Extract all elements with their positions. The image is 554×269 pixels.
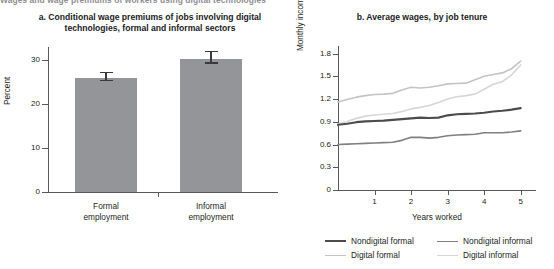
panel-a-y-tick bbox=[42, 60, 48, 61]
panel-b-x-tick bbox=[484, 190, 485, 195]
panel-b-y-tick-label: 1.2 bbox=[306, 95, 331, 103]
panel-b-y-tick-label: 1.5 bbox=[306, 72, 331, 80]
panel-b-y-tick bbox=[333, 122, 338, 123]
panel-b-x-tick bbox=[375, 190, 376, 195]
panel-a-y-axis-title: Percent bbox=[3, 77, 12, 105]
panel-a-y-tick-label: 30 bbox=[14, 56, 40, 64]
panel-b-y-tick-label: 0 bbox=[306, 186, 331, 194]
panel-a-x-tick-label: Formalemployment bbox=[51, 201, 161, 222]
panel-a-bar bbox=[75, 78, 137, 192]
panel-b-x-axis-line bbox=[338, 190, 536, 191]
panel-b-line-series bbox=[338, 131, 521, 145]
panel-b-x-tick-label: 2 bbox=[401, 197, 421, 206]
panel-a-wage-premiums: a. Conditional wage premiums of jobs inv… bbox=[0, 0, 300, 269]
panel-b-y-tick-label: 0.6 bbox=[306, 141, 331, 149]
panel-b-y-tick-label: 0.3 bbox=[306, 163, 331, 171]
panel-a-error-cap bbox=[205, 62, 218, 63]
panel-b-x-tick-label: 3 bbox=[438, 197, 458, 206]
panel-b-y-tick-label: 0.9 bbox=[306, 118, 331, 126]
legend-label: Digital formal bbox=[351, 250, 400, 260]
panel-b-line-series bbox=[338, 61, 521, 102]
panel-b-y-tick bbox=[333, 99, 338, 100]
panel-b-y-tick-label: 1.8 bbox=[306, 50, 331, 58]
panel-a-title: a. Conditional wage premiums of jobs inv… bbox=[0, 12, 300, 34]
panel-a-x-tick-label: Informalemployment bbox=[156, 201, 266, 222]
legend-item-nondigital-informal[interactable]: Nondigital informal bbox=[437, 234, 554, 248]
panel-b-x-axis-title: Years worked bbox=[338, 212, 536, 222]
panel-a-y-tick bbox=[42, 104, 48, 105]
legend-item-nondigital-formal[interactable]: Nondigital formal bbox=[325, 234, 437, 248]
panel-b-x-tick-label: 4 bbox=[474, 197, 494, 206]
panel-a-bar bbox=[180, 59, 242, 192]
panel-a-y-axis-line bbox=[48, 47, 49, 192]
panel-b-x-tick bbox=[448, 190, 449, 195]
panel-b-series-lines bbox=[338, 46, 528, 190]
panel-b-x-tick-label: 1 bbox=[365, 197, 385, 206]
panel-a-plot-area: Percent 0102030FormalemploymentInformale… bbox=[48, 47, 266, 192]
legend-row: Nondigital formalNondigital informal bbox=[325, 234, 554, 248]
panel-b-average-wages: b. Average wages, by job tenure Monthly … bbox=[290, 0, 554, 269]
panel-a-error-cap bbox=[205, 51, 218, 52]
legend-label: Nondigital formal bbox=[351, 236, 414, 246]
panel-b-y-tick bbox=[333, 190, 338, 191]
panel-a-error-cap bbox=[100, 72, 113, 73]
panel-a-y-tick bbox=[42, 148, 48, 149]
panel-a-y-tick-label: 20 bbox=[14, 100, 40, 108]
panel-b-x-tick-label: 5 bbox=[511, 197, 531, 206]
panel-b-y-axis-title: Monthly income (Rp, millions) bbox=[296, 0, 305, 51]
panel-a-y-tick bbox=[42, 192, 48, 193]
panel-b-x-tick bbox=[521, 190, 522, 195]
legend-item-digital-formal[interactable]: Digital formal bbox=[325, 248, 437, 262]
panel-b-y-tick bbox=[333, 54, 338, 55]
panel-b-title: b. Average wages, by job tenure bbox=[290, 12, 554, 23]
legend-label: Nondigital informal bbox=[463, 236, 532, 246]
panel-a-y-tick-label: 0 bbox=[14, 188, 40, 196]
legend-label: Digital informal bbox=[463, 250, 518, 260]
panel-a-x-tick bbox=[158, 192, 159, 197]
panel-b-y-tick bbox=[333, 167, 338, 168]
panel-b-plot-area: Monthly income (Rp, millions) Years work… bbox=[338, 46, 528, 190]
panel-b-legend: Nondigital formalNondigital informalDigi… bbox=[325, 234, 554, 262]
panel-b-y-tick bbox=[333, 76, 338, 77]
panel-a-x-axis-line bbox=[42, 192, 278, 193]
legend-row: Digital formalDigital informal bbox=[325, 248, 554, 262]
panel-a-error-bar bbox=[210, 51, 211, 63]
legend-swatch-line-icon bbox=[325, 240, 346, 242]
legend-item-digital-informal[interactable]: Digital informal bbox=[437, 248, 554, 262]
legend-swatch-line-icon bbox=[437, 241, 458, 242]
panel-b-x-tick bbox=[411, 190, 412, 195]
figure-wages-digital-technologies: Wages and wage premiums of workers using… bbox=[0, 0, 554, 269]
legend-swatch-line-icon bbox=[437, 255, 458, 256]
panel-a-y-tick-label: 10 bbox=[14, 144, 40, 152]
legend-swatch-line-icon bbox=[325, 255, 346, 256]
panel-a-error-cap bbox=[100, 80, 113, 81]
panel-b-y-tick bbox=[333, 145, 338, 146]
